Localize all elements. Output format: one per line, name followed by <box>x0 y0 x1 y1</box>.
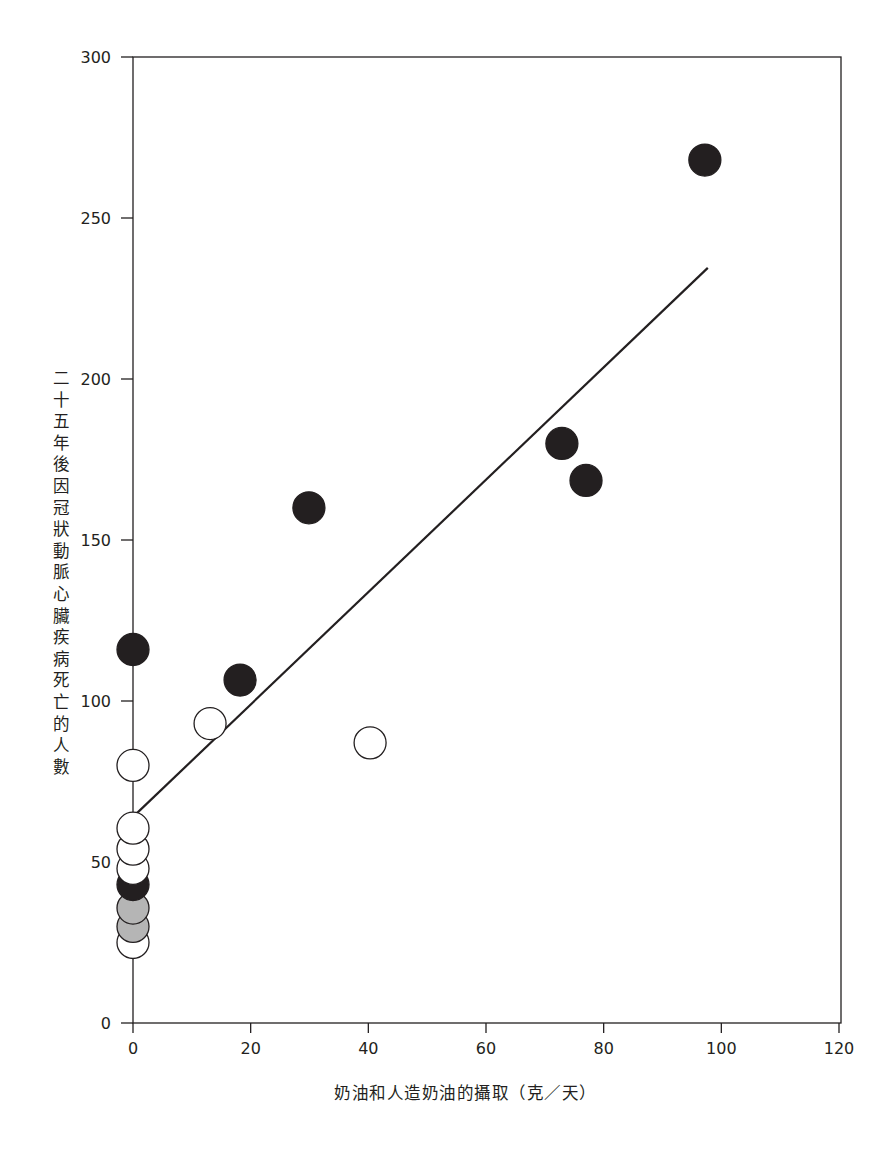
data-point-open <box>194 708 226 740</box>
x-tick-label: 20 <box>240 1039 260 1058</box>
y-tick-label: 0 <box>101 1014 111 1033</box>
data-point-black <box>293 492 325 524</box>
x-axis-title: 奶油和人造奶油的攝取（克／天） <box>334 1080 664 1104</box>
y-tick-label: 50 <box>91 853 111 872</box>
data-point-black <box>570 464 602 496</box>
scatter-chart: 020406080100120050100150200250300 <box>0 0 894 1153</box>
plot-frame <box>133 57 841 1023</box>
x-tick-label: 60 <box>476 1039 496 1058</box>
x-tick-label: 0 <box>128 1039 138 1058</box>
y-tick-label: 150 <box>80 531 111 550</box>
data-point-open <box>354 727 386 759</box>
data-points <box>117 144 721 958</box>
y-axis-title: 二十五年後因冠狀動脈心臟疾病死亡的人數 <box>50 368 72 778</box>
x-tick-label: 80 <box>593 1039 613 1058</box>
data-point-open <box>117 749 149 781</box>
y-tick-label: 300 <box>80 48 111 67</box>
x-tick-label: 100 <box>706 1039 737 1058</box>
data-point-open <box>117 812 149 844</box>
plot-border <box>133 57 841 1023</box>
data-point-black <box>689 144 721 176</box>
data-point-black <box>117 633 149 665</box>
y-tick-label: 250 <box>80 209 111 228</box>
x-tick-label: 120 <box>824 1039 855 1058</box>
y-tick-label: 100 <box>80 692 111 711</box>
y-tick-label: 200 <box>80 370 111 389</box>
data-point-black <box>224 664 256 696</box>
x-tick-label: 40 <box>358 1039 378 1058</box>
data-point-black <box>546 427 578 459</box>
axis-ticks: 020406080100120050100150200250300 <box>80 48 854 1058</box>
